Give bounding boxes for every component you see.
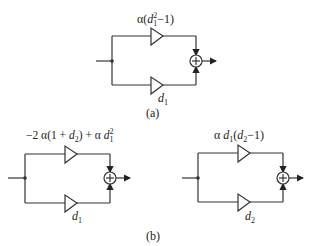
diagram-a [96, 28, 216, 94]
label-text: ) + α [79, 129, 104, 141]
gain-label-bottom-b-left: d1 [72, 210, 82, 222]
gain-label-top-a: α(d12−1) [137, 13, 174, 25]
label-text: α [214, 128, 223, 142]
label-text: −1) [157, 12, 174, 26]
label-text: α( [137, 12, 147, 26]
label-text: −1) [247, 128, 264, 142]
block-diagrams [0, 0, 312, 246]
label-sub: 1 [109, 135, 113, 144]
label-sub: 1 [78, 216, 82, 225]
gain-label-bottom-b-right: d2 [245, 210, 255, 222]
gain-label-top-b-right: α d1(d2−1) [214, 129, 264, 141]
caption-a: (a) [146, 107, 159, 119]
diagram-b-left [8, 146, 130, 212]
label-sub: 2 [251, 216, 255, 225]
gain-label-top-b-left: −2 α(1 + d2) + α d12 [26, 130, 113, 142]
caption-b: (b) [146, 230, 160, 242]
gain-triangle-top-a [151, 28, 163, 45]
diagram-b-right [182, 145, 303, 211]
label-sub: 1 [164, 98, 168, 107]
label-sup: 2 [109, 127, 113, 136]
label-text: −2 α(1 + [26, 129, 69, 141]
gain-label-bottom-a: d1 [158, 92, 168, 104]
